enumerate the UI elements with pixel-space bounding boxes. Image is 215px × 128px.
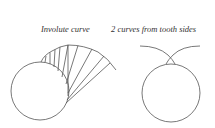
tooth-sides-diagram (140, 46, 200, 122)
base-circle-left (11, 62, 69, 120)
diagram-canvas (0, 0, 215, 128)
involute-curve (41, 45, 116, 70)
involute-diagram (11, 45, 116, 120)
tooth-side-curve-right (166, 46, 200, 64)
tooth-side-curve-left (140, 46, 175, 64)
base-circle-right (142, 64, 200, 122)
